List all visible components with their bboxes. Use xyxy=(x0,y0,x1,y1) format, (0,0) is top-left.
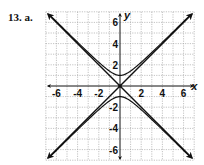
y-tick-label: 2 xyxy=(112,60,118,71)
x-tick-label: -2 xyxy=(94,88,103,99)
hyperbola-plot: xy-6-4-2246642-2-4-6 xyxy=(0,0,204,165)
y-tick-label: 4 xyxy=(112,39,118,50)
x-tick-label: -6 xyxy=(52,88,61,99)
y-tick-label: 6 xyxy=(112,17,118,28)
y-axis-label: y xyxy=(123,9,131,21)
x-tick-label: 6 xyxy=(181,88,187,99)
origin-point xyxy=(118,84,122,88)
y-tick-label: -4 xyxy=(109,123,118,134)
y-tick-label: -2 xyxy=(109,102,118,113)
x-tick-label: 4 xyxy=(160,88,166,99)
y-tick-label: -6 xyxy=(109,145,118,156)
x-tick-label: -4 xyxy=(73,88,82,99)
x-axis-label: x xyxy=(190,80,198,92)
x-tick-label: 2 xyxy=(138,88,144,99)
